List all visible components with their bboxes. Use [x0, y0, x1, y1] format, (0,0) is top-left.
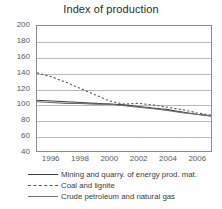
series-line — [37, 73, 211, 115]
y-tick-label: 80 — [0, 115, 30, 124]
legend-label: Mining and quarry. of energy prod. mat. — [61, 170, 197, 180]
y-tick-label: 180 — [0, 36, 30, 45]
y-tick-label: 100 — [0, 99, 30, 108]
y-tick-label: 40 — [0, 147, 30, 156]
legend-line-swatch — [28, 193, 58, 200]
x-tick-label: 2006 — [177, 154, 217, 163]
chart-title: Index of production — [0, 3, 222, 15]
y-tick-label: 140 — [0, 68, 30, 77]
y-tick-label: 120 — [0, 84, 30, 93]
y-tick-label: 160 — [0, 52, 30, 61]
plot-area — [36, 25, 212, 152]
legend-item[interactable]: Mining and quarry. of energy prod. mat. — [28, 169, 222, 180]
legend-line-swatch — [28, 182, 58, 189]
series-lines — [37, 26, 211, 151]
legend-item[interactable]: Coal and lignite — [28, 180, 222, 191]
legend-line-swatch — [28, 171, 58, 178]
y-tick-label: 60 — [0, 131, 30, 140]
chart-legend: Mining and quarry. of energy prod. mat.C… — [28, 169, 222, 202]
legend-item[interactable]: Crude petroleum and natural gas — [28, 191, 222, 202]
legend-label: Coal and lignite — [61, 181, 115, 191]
legend-label: Crude petroleum and natural gas — [61, 192, 175, 202]
y-tick-label: 200 — [0, 20, 30, 29]
chart-container: Index of production 20018016014012010080… — [0, 0, 222, 209]
